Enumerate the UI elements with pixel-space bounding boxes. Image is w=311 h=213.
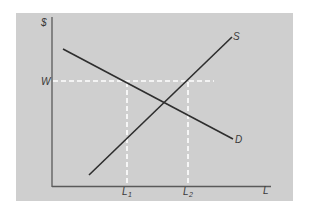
svg-text:2: 2 [188, 191, 193, 198]
x-axis-label: L [263, 185, 269, 196]
y-axis-label: $ [40, 17, 47, 28]
svg-text:L: L [122, 186, 128, 197]
svg-text:1: 1 [128, 191, 132, 198]
svg-text:L: L [183, 186, 189, 197]
labor-market-diagram: $ W S D L 1 L 2 L [0, 0, 311, 213]
wage-label: W [41, 76, 52, 87]
diagram-panel [16, 13, 293, 201]
demand-label: D [235, 134, 242, 145]
supply-label: S [233, 31, 240, 42]
